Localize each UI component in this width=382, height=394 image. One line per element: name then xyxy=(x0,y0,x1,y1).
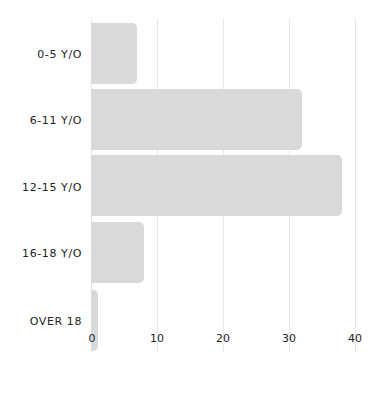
bar-12-15 xyxy=(91,155,342,216)
category-label: OVER 18 xyxy=(30,315,82,328)
x-tick-label: 20 xyxy=(216,332,230,345)
bar-6-11 xyxy=(91,89,302,150)
x-tick-label: 30 xyxy=(282,332,296,345)
x-tick-label: 10 xyxy=(150,332,164,345)
category-label: 0-5 Y/O xyxy=(37,48,82,61)
x-tick-label: 40 xyxy=(348,332,362,345)
x-tick-label: 0 xyxy=(89,332,96,345)
category-label: 12-15 Y/O xyxy=(22,181,82,194)
bar-16-18 xyxy=(91,222,144,283)
bar-0-5 xyxy=(91,23,137,84)
horizontal-bar-chart: 0-5 Y/O 6-11 Y/O 12-15 Y/O 16-18 Y/O OVE… xyxy=(0,0,382,394)
category-label: 16-18 Y/O xyxy=(22,247,82,260)
category-label: 6-11 Y/O xyxy=(30,114,82,127)
gridline-40 xyxy=(355,18,356,352)
